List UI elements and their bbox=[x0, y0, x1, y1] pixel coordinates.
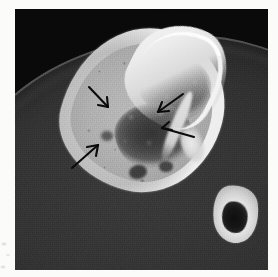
annotation-arrow-3[interactable]: arrow pointing left at posterolateral co… bbox=[157, 121, 197, 147]
annotation-arrow-1[interactable]: arrow pointing down-right at anterior co… bbox=[85, 83, 119, 117]
annotation-arrow-4[interactable]: arrow pointing up-right at medial cortic… bbox=[69, 139, 105, 171]
screenshot-page: arrow pointing down-right at anterior co… bbox=[0, 0, 278, 277]
satellite-lucency-b bbox=[159, 161, 173, 172]
fibula-bone bbox=[213, 185, 259, 243]
ct-scan-image: arrow pointing down-right at anterior co… bbox=[15, 9, 268, 270]
scan-edge-smudge-artifact bbox=[0, 238, 14, 277]
annotation-arrow-2[interactable]: arrow pointing down-left at lateral cort… bbox=[151, 91, 187, 123]
